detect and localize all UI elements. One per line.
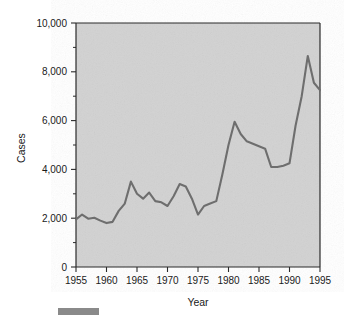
y-axis-title: Cases: [15, 133, 27, 163]
x-tick-label-1955: 1955: [65, 275, 88, 286]
x-tick-label-1985: 1985: [248, 275, 271, 286]
plot-grain-texture: [76, 23, 320, 267]
x-axis-tick-labels: 1955 1960 1965 1970 1975 1980 1985 1990 …: [65, 275, 332, 286]
y-tick-label-4000: 4,000: [42, 164, 67, 175]
x-tick-label-1995: 1995: [309, 275, 332, 286]
x-tick-label-1965: 1965: [126, 275, 149, 286]
x-tick-label-1970: 1970: [156, 275, 179, 286]
y-tick-label-2000: 2,000: [42, 213, 67, 224]
y-tick-label-10000: 10,000: [36, 18, 67, 29]
plot-area: [76, 23, 320, 267]
y-tick-label-0: 0: [61, 262, 67, 273]
x-tick-label-1960: 1960: [95, 275, 118, 286]
x-axis-title: Year: [187, 296, 209, 308]
x-tick-label-1975: 1975: [187, 275, 210, 286]
x-tick-label-1980: 1980: [217, 275, 240, 286]
x-tick-label-1990: 1990: [278, 275, 301, 286]
line-chart: 0 2,000 4,000 6,000 8,000 10,000 1955 19…: [0, 0, 344, 319]
chart-figure: 0 2,000 4,000 6,000 8,000 10,000 1955 19…: [0, 0, 344, 319]
y-tick-label-6000: 6,000: [42, 115, 67, 126]
y-tick-label-8000: 8,000: [42, 66, 67, 77]
footer-marker-bar: [58, 308, 99, 315]
